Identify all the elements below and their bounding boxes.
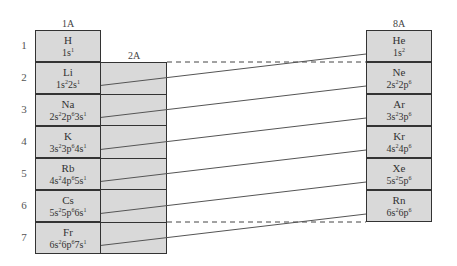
element-symbol: Kr bbox=[367, 130, 431, 142]
element-cell-ne: Ne2s22p6 bbox=[366, 62, 432, 94]
element-symbol: Ne bbox=[367, 66, 431, 78]
element-symbol: H bbox=[36, 34, 100, 46]
element-symbol: He bbox=[367, 34, 431, 46]
arrow-k-to-ar bbox=[96, 116, 383, 150]
element-cell-na: Na2s22p63s1 bbox=[35, 94, 101, 126]
electron-configuration: 1s1 bbox=[36, 46, 100, 59]
electron-configuration: 5s25p66s1 bbox=[36, 206, 100, 219]
element-symbol: Ar bbox=[367, 98, 431, 110]
element-symbol: Li bbox=[36, 66, 100, 78]
element-cell-h: H1s1 bbox=[35, 30, 101, 62]
element-cell-li: Li1s22s1 bbox=[35, 62, 101, 94]
element-cell-kr: Kr4s24p6 bbox=[366, 126, 432, 158]
element-cell-he: He1s2 bbox=[366, 30, 432, 62]
electron-configuration: 6s26p6 bbox=[367, 206, 431, 219]
element-cell-cs: Cs5s25p66s1 bbox=[35, 190, 101, 222]
arrow-na-to-ne bbox=[96, 84, 383, 118]
element-symbol: K bbox=[36, 130, 100, 142]
electron-configuration: 4s24p6 bbox=[367, 142, 431, 155]
element-cell-rb: Rb4s24p65s1 bbox=[35, 158, 101, 190]
electron-configuration: 6s26p67s1 bbox=[36, 238, 100, 251]
element-cell-xe: Xe5s25p6 bbox=[366, 158, 432, 190]
electron-configuration: 2s22p63s1 bbox=[36, 110, 100, 123]
element-cell-rn: Rn6s26p6 bbox=[366, 190, 432, 222]
element-symbol: Rn bbox=[367, 194, 431, 206]
element-symbol: Rb bbox=[36, 162, 100, 174]
electron-configuration: 1s2 bbox=[367, 46, 431, 59]
electron-configuration: 3s23p6 bbox=[367, 110, 431, 123]
element-cell-ar: Ar3s23p6 bbox=[366, 94, 432, 126]
electron-configuration: 3s23p64s1 bbox=[36, 142, 100, 155]
electron-configuration: 4s24p65s1 bbox=[36, 174, 100, 187]
arrow-fr-to-rn bbox=[96, 212, 383, 246]
electron-configuration: 1s22s1 bbox=[36, 78, 100, 91]
element-cell-fr: Fr6s26p67s1 bbox=[35, 222, 101, 254]
arrow-rb-to-kr bbox=[96, 148, 383, 182]
element-symbol: Cs bbox=[36, 194, 100, 206]
arrow-cs-to-xe bbox=[96, 180, 383, 214]
arrow-li-to-he bbox=[96, 52, 383, 86]
electron-configuration: 5s25p6 bbox=[367, 174, 431, 187]
electron-configuration: 2s22p6 bbox=[367, 78, 431, 91]
element-symbol: Na bbox=[36, 98, 100, 110]
element-cell-k: K3s23p64s1 bbox=[35, 126, 101, 158]
element-symbol: Xe bbox=[367, 162, 431, 174]
element-symbol: Fr bbox=[36, 226, 100, 238]
